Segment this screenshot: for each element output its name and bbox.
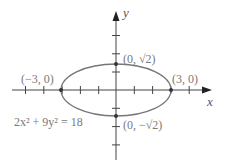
label-left-point: (−3, 0): [21, 72, 54, 86]
label-right-point: (3, 0): [172, 72, 198, 86]
ellipse-graph: (0, √2) (−3, 0) (3, 0) (0, −√2) 2x² + 9y…: [0, 0, 229, 165]
x-axis-arrow-icon: [202, 87, 212, 94]
x-axis-label: x: [206, 94, 213, 109]
label-bottom-point: (0, −√2): [123, 118, 162, 132]
equation-label: 2x² + 9y² = 18: [14, 115, 83, 129]
y-axis-label: y: [121, 5, 129, 20]
label-top-point: (0, √2): [123, 52, 156, 66]
y-axis-arrow-icon: [113, 11, 120, 21]
vertex-left-point: [59, 88, 63, 92]
vertex-bottom-point: [114, 114, 118, 118]
vertex-right-point: [169, 88, 173, 92]
vertex-top-point: [114, 62, 118, 66]
